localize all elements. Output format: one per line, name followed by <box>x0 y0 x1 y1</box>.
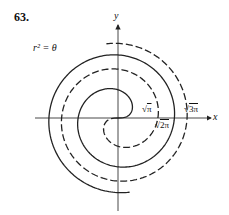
x-axis-label: x <box>213 112 217 122</box>
y-axis-label: y <box>114 11 118 21</box>
radius-label-sqrt-3pi: √3π <box>184 105 198 114</box>
radius-label-sqrt-2pi: √2π <box>155 121 169 130</box>
equation-label: r² = θ <box>33 43 57 53</box>
problem-number: 63. <box>14 11 29 23</box>
radius-label-sqrt-pi: √π <box>142 105 152 114</box>
